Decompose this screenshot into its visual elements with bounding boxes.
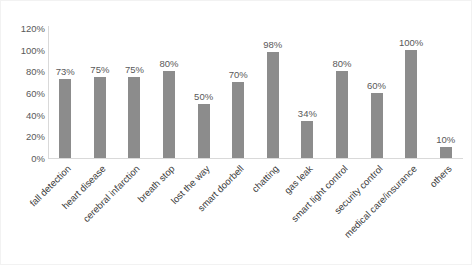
x-axis-category-label: others [427, 163, 453, 189]
bar[interactable] [405, 50, 417, 158]
y-axis-tick-label: 20% [3, 131, 45, 142]
bar[interactable] [94, 77, 106, 158]
bar[interactable] [198, 104, 210, 158]
x-axis-category-labels: fall detectionheart diseasecerebral infa… [48, 159, 463, 259]
bar[interactable] [232, 82, 244, 158]
y-axis-tick-label: 100% [3, 44, 45, 55]
bar-slot: 50% [186, 28, 221, 158]
y-axis-tick-labels: 120%100%80%60%40%20%0% [1, 28, 45, 158]
bar[interactable] [336, 71, 348, 158]
y-axis-tick-label: 80% [3, 66, 45, 77]
category-label-slot: medical care/insurance [394, 159, 429, 259]
category-label-slot: smart doorbell [221, 159, 256, 259]
bar-slot: 34% [290, 28, 325, 158]
bar[interactable] [128, 77, 140, 158]
bar-slot: 80% [325, 28, 360, 158]
bar[interactable] [163, 71, 175, 158]
bar[interactable] [301, 121, 313, 158]
category-label-slot: others [428, 159, 463, 259]
bar-value-label: 50% [194, 91, 213, 102]
bar-value-label: 34% [298, 108, 317, 119]
bar-chart: 120%100%80%60%40%20%0% 73%75%75%80%50%70… [0, 0, 472, 265]
bar-value-label: 73% [56, 66, 75, 77]
bar[interactable] [267, 52, 279, 158]
bar-value-label: 70% [229, 69, 248, 80]
plot-area: 73%75%75%80%50%70%98%34%80%60%100%10% [48, 28, 463, 158]
bar-slot: 75% [117, 28, 152, 158]
bar-slot: 75% [83, 28, 118, 158]
bar-value-label: 98% [263, 39, 282, 50]
bar-value-label: 75% [90, 64, 109, 75]
bar-value-label: 75% [125, 64, 144, 75]
bar-value-label: 80% [332, 58, 351, 69]
bar-slot: 80% [152, 28, 187, 158]
bar[interactable] [59, 79, 71, 158]
y-axis-tick-label: 40% [3, 109, 45, 120]
bar-slot: 73% [48, 28, 83, 158]
bar-slot: 10% [428, 28, 463, 158]
category-label-slot: cerebral infarction [117, 159, 152, 259]
y-axis-tick-label: 0% [3, 153, 45, 164]
bar[interactable] [440, 147, 452, 158]
y-axis-tick-label: 60% [3, 88, 45, 99]
category-label-slot: chatting [256, 159, 291, 259]
y-axis-tick-label: 120% [3, 23, 45, 34]
category-label-slot: breath stop [152, 159, 187, 259]
bar[interactable] [371, 93, 383, 158]
bar-slot: 60% [359, 28, 394, 158]
bar-value-label: 100% [399, 37, 423, 48]
bar-slot: 100% [394, 28, 429, 158]
bar-value-label: 80% [160, 58, 179, 69]
bar-value-label: 10% [436, 134, 455, 145]
bar-value-label: 60% [367, 80, 386, 91]
bar-slot: 98% [256, 28, 291, 158]
bar-slot: 70% [221, 28, 256, 158]
